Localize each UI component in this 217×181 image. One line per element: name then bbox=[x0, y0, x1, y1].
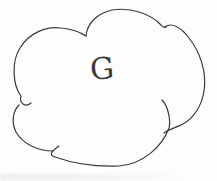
cloud-outline-left-lobe-stroke bbox=[14, 28, 86, 105]
cloud-outline-top-bump-stroke bbox=[86, 9, 166, 36]
paper-background: G bbox=[0, 0, 217, 181]
cloud-label: G bbox=[85, 52, 119, 86]
cloud-sketch bbox=[0, 0, 217, 181]
cloud-outline-right-lobe-stroke bbox=[164, 25, 205, 133]
cloud-outline-bottom-left-lobe-stroke bbox=[13, 105, 53, 151]
cloud-outline-group bbox=[13, 9, 205, 166]
cloud-outline-bottom-arc-stroke bbox=[51, 100, 169, 166]
